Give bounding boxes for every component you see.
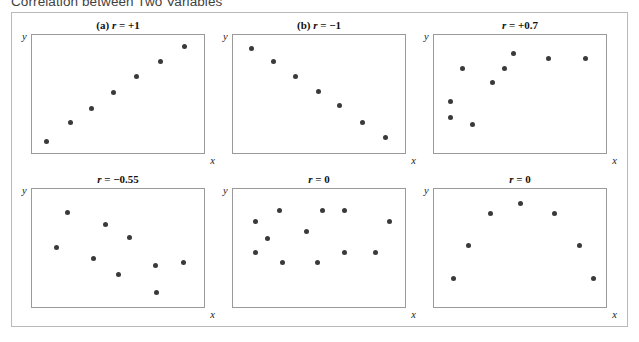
data-point	[460, 66, 465, 71]
y-axis-label: y	[424, 32, 429, 43]
data-point	[518, 201, 523, 206]
x-axis-label: x	[612, 310, 617, 321]
data-point	[448, 115, 453, 120]
figure-caption: Correlation between Two Variables	[11, 0, 222, 11]
y-axis-label: y	[22, 32, 27, 43]
data-point	[342, 208, 347, 213]
data-point	[383, 135, 388, 140]
data-point	[182, 44, 187, 49]
data-point	[116, 272, 121, 277]
data-point	[342, 250, 347, 255]
data-point	[360, 120, 365, 125]
scatterplot-panel-6: r = 0yx	[422, 173, 618, 321]
data-point	[466, 243, 471, 248]
scatterplot-panel-5: r = 0yx	[221, 173, 417, 321]
scatterplot-panel-2: (b) r = −1yx	[221, 19, 417, 167]
panel-correlation-text: r = 0	[509, 173, 531, 185]
data-point	[249, 46, 254, 51]
data-point	[502, 66, 507, 71]
data-point	[546, 56, 551, 61]
data-point	[44, 139, 49, 144]
data-point	[253, 250, 258, 255]
data-point	[373, 250, 378, 255]
scatterplot-panel-3: r = +0.7yx	[422, 19, 618, 167]
x-axis-label: x	[411, 156, 416, 167]
data-point	[293, 74, 298, 79]
data-point	[490, 80, 495, 85]
x-axis-label: x	[411, 310, 416, 321]
data-point	[448, 99, 453, 104]
data-point	[91, 256, 96, 261]
data-point	[54, 245, 59, 250]
panel-title-5: r = 0	[221, 173, 417, 185]
data-point	[134, 74, 139, 79]
y-axis-label: y	[424, 186, 429, 197]
data-point	[280, 260, 285, 265]
data-point	[65, 210, 70, 215]
panel-label-prefix: (a)	[96, 19, 112, 31]
data-point	[103, 222, 108, 227]
data-point	[583, 56, 588, 61]
data-point	[304, 229, 309, 234]
plot-area-1	[31, 34, 205, 154]
panel-title-1: (a) r = +1	[20, 19, 216, 31]
data-point	[68, 120, 73, 125]
panel-correlation-text: r = 0	[308, 173, 330, 185]
data-point	[337, 103, 342, 108]
panel-title-6: r = 0	[422, 173, 618, 185]
y-axis-label: y	[22, 186, 27, 197]
scatterplot-panel-4: r = −0.55yx	[20, 173, 216, 321]
x-axis-label: x	[210, 310, 215, 321]
panel-label-prefix: (b)	[297, 19, 313, 31]
panel-title-3: r = +0.7	[422, 19, 618, 31]
data-point	[154, 290, 159, 295]
data-point	[552, 211, 557, 216]
data-point	[316, 89, 321, 94]
scatterplot-panel-1: (a) r = +1yx	[20, 19, 216, 167]
y-axis-label: y	[223, 32, 228, 43]
panel-correlation-text: r = +1	[112, 19, 140, 31]
panel-correlation-text: r = −1	[313, 19, 341, 31]
data-point	[277, 208, 282, 213]
data-point	[591, 276, 596, 281]
data-point	[577, 243, 582, 248]
data-point	[451, 276, 456, 281]
data-point	[111, 90, 116, 95]
data-point	[265, 236, 270, 241]
plot-area-3	[433, 34, 607, 154]
panel-title-4: r = −0.55	[20, 173, 216, 185]
plot-area-6	[433, 188, 607, 308]
data-point	[271, 59, 276, 64]
plot-area-4	[31, 188, 205, 308]
data-point	[127, 235, 132, 240]
data-point	[181, 260, 186, 265]
data-point	[253, 219, 258, 224]
data-point	[488, 211, 493, 216]
data-point	[153, 263, 158, 268]
data-point	[511, 51, 516, 56]
x-axis-label: x	[210, 156, 215, 167]
data-point	[387, 219, 392, 224]
panel-correlation-text: r = +0.7	[502, 19, 538, 31]
figure-frame: (a) r = +1yx(b) r = −1yxr = +0.7yxr = −0…	[11, 12, 628, 327]
plot-area-2	[232, 34, 406, 154]
panel-title-2: (b) r = −1	[221, 19, 417, 31]
data-point	[315, 260, 320, 265]
data-point	[89, 106, 94, 111]
data-point	[470, 122, 475, 127]
scatterplot-panel-grid: (a) r = +1yx(b) r = −1yxr = +0.7yxr = −0…	[12, 13, 627, 326]
panel-correlation-text: r = −0.55	[97, 173, 139, 185]
y-axis-label: y	[223, 186, 228, 197]
x-axis-label: x	[612, 156, 617, 167]
data-point	[158, 59, 163, 64]
data-point	[320, 208, 325, 213]
plot-area-5	[232, 188, 406, 308]
